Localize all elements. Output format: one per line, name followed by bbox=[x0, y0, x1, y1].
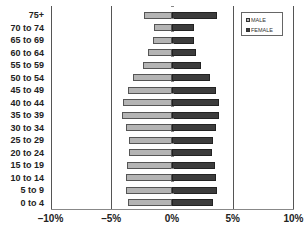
bar-male bbox=[126, 174, 172, 181]
zero-axis-tick bbox=[171, 118, 174, 119]
zero-axis-tick bbox=[171, 43, 174, 44]
bar-male bbox=[126, 187, 172, 194]
bar-female bbox=[172, 162, 215, 169]
male-swatch-icon bbox=[246, 18, 250, 22]
category-label: 30 to 34 bbox=[10, 123, 44, 133]
x-tick-label: 10% bbox=[283, 213, 303, 224]
zero-axis-tick bbox=[171, 56, 174, 57]
bar-male bbox=[153, 37, 172, 44]
bar-female bbox=[172, 187, 217, 194]
bar-female bbox=[172, 112, 219, 119]
bar-male bbox=[126, 124, 172, 131]
zero-axis-tick bbox=[171, 143, 174, 144]
population-pyramid-chart: 75+70 to 7465 to 6960 to 6455 to 5950 to… bbox=[0, 0, 308, 233]
bar-male bbox=[129, 149, 172, 156]
bar-female bbox=[172, 37, 194, 44]
legend: MALE FEMALE bbox=[241, 12, 283, 36]
legend-item-male: MALE bbox=[246, 17, 266, 23]
category-label: 5 to 9 bbox=[20, 185, 44, 195]
bar-male bbox=[122, 112, 172, 119]
x-tick-label: –5% bbox=[101, 213, 121, 224]
legend-label-female: FEMALE bbox=[251, 27, 273, 33]
bar-female bbox=[172, 24, 194, 31]
x-axis bbox=[51, 209, 294, 210]
gridline-pos5 bbox=[233, 6, 234, 209]
bar-female bbox=[172, 62, 201, 69]
bar-female bbox=[172, 124, 216, 131]
bar-female bbox=[172, 74, 210, 81]
legend-item-female: FEMALE bbox=[246, 27, 273, 33]
bar-male bbox=[133, 74, 172, 81]
bar-female bbox=[172, 87, 216, 94]
x-tick-label: 5% bbox=[226, 213, 240, 224]
category-label: 25 to 29 bbox=[10, 135, 44, 145]
gridline-neg10 bbox=[51, 6, 52, 209]
bar-female bbox=[172, 137, 213, 144]
bar-female bbox=[172, 49, 196, 56]
bar-male bbox=[129, 137, 172, 144]
zero-axis-tick bbox=[171, 181, 174, 182]
bar-male bbox=[127, 162, 172, 169]
category-label: 40 to 44 bbox=[10, 98, 44, 108]
female-swatch-icon bbox=[246, 28, 250, 32]
bar-male bbox=[128, 87, 172, 94]
zero-axis-tick bbox=[171, 156, 174, 157]
zero-axis-tick bbox=[171, 93, 174, 94]
category-label: 45 to 49 bbox=[10, 85, 44, 95]
bar-male bbox=[143, 62, 172, 69]
bar-male bbox=[144, 12, 172, 19]
zero-axis-tick bbox=[171, 106, 174, 107]
category-label: 55 to 59 bbox=[10, 60, 44, 70]
category-label: 60 to 64 bbox=[10, 48, 44, 58]
category-label: 75+ bbox=[29, 10, 44, 20]
bar-male bbox=[154, 24, 172, 31]
zero-axis-tick bbox=[171, 131, 174, 132]
bar-female bbox=[172, 149, 212, 156]
category-label: 10 to 14 bbox=[10, 173, 44, 183]
zero-axis-tick bbox=[171, 193, 174, 194]
zero-axis-tick bbox=[171, 6, 174, 7]
bar-male bbox=[123, 99, 172, 106]
category-label: 20 to 24 bbox=[10, 148, 44, 158]
bar-male bbox=[148, 49, 172, 56]
category-label: 15 to 19 bbox=[10, 160, 44, 170]
bar-female bbox=[172, 174, 216, 181]
bar-female bbox=[172, 12, 217, 19]
bar-female bbox=[172, 99, 219, 106]
category-label: 70 to 74 bbox=[10, 23, 44, 33]
category-label: 35 to 39 bbox=[10, 110, 44, 120]
category-label: 0 to 4 bbox=[20, 198, 44, 208]
bar-male bbox=[128, 199, 172, 206]
zero-axis-tick bbox=[171, 168, 174, 169]
gridline-neg5 bbox=[111, 6, 112, 209]
zero-axis-tick bbox=[171, 18, 174, 19]
x-tick-label: 0% bbox=[165, 213, 179, 224]
x-tick-label: –10% bbox=[38, 213, 64, 224]
zero-axis-tick bbox=[171, 31, 174, 32]
zero-axis-tick bbox=[171, 68, 174, 69]
bar-female bbox=[172, 199, 213, 206]
category-label: 50 to 54 bbox=[10, 73, 44, 83]
gridline-pos10 bbox=[293, 6, 294, 209]
category-label: 65 to 69 bbox=[10, 35, 44, 45]
zero-axis-tick bbox=[171, 81, 174, 82]
legend-label-male: MALE bbox=[251, 17, 266, 23]
